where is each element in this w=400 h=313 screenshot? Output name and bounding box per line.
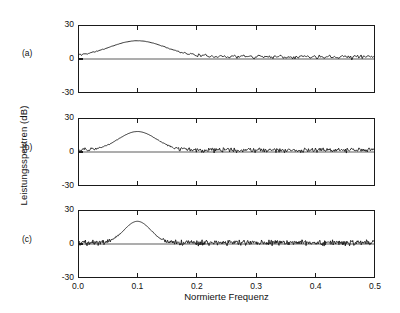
x-tick-mark bbox=[315, 273, 316, 278]
panel-c: 300-30 0.00.10.20.30.40.5 bbox=[78, 210, 375, 278]
y-tick-label: 30 bbox=[50, 19, 74, 29]
x-tick-mark bbox=[137, 273, 138, 278]
panel-label-c: (c) bbox=[22, 234, 48, 244]
x-tick-mark bbox=[374, 88, 375, 93]
spectrum-line bbox=[78, 132, 375, 154]
y-axis-label-text: Leistungsspektren (dB) bbox=[18, 81, 29, 231]
x-tick-mark bbox=[137, 88, 138, 93]
x-tick-label: 0.3 bbox=[241, 281, 271, 291]
y-tick-label: -30 bbox=[50, 180, 74, 190]
x-tick-label: 0.2 bbox=[182, 281, 212, 291]
x-tick-mark bbox=[374, 181, 375, 186]
x-axis-label: Normierte Frequenz bbox=[78, 291, 375, 302]
x-tick-mark bbox=[315, 88, 316, 93]
x-tick-mark bbox=[315, 210, 316, 215]
power-spectrum-figure: Leistungsspektren (dB) (a) (b) (c) 300-3… bbox=[0, 0, 400, 313]
x-tick-mark bbox=[196, 210, 197, 215]
y-tick-mark bbox=[78, 58, 83, 59]
x-tick-mark bbox=[196, 25, 197, 30]
x-tick-mark bbox=[256, 88, 257, 93]
panel-a-trace bbox=[78, 25, 375, 93]
x-tick-mark bbox=[256, 118, 257, 123]
y-tick-label: -30 bbox=[50, 87, 74, 97]
spectrum-line bbox=[78, 41, 375, 60]
x-tick-mark bbox=[256, 273, 257, 278]
y-tick-mark bbox=[78, 92, 83, 93]
panel-b: 300-30 bbox=[78, 118, 375, 186]
x-tick-mark bbox=[315, 118, 316, 123]
x-tick-mark bbox=[196, 181, 197, 186]
panel-a: 300-30 bbox=[78, 25, 375, 93]
y-tick-mark bbox=[78, 243, 83, 244]
panel-c-trace bbox=[78, 210, 375, 278]
panel-label-a: (a) bbox=[22, 48, 48, 58]
x-tick-mark bbox=[374, 118, 375, 123]
y-tick-label: 0 bbox=[50, 146, 74, 156]
y-tick-label: 0 bbox=[50, 238, 74, 248]
x-tick-mark bbox=[315, 25, 316, 30]
y-tick-mark bbox=[78, 118, 83, 119]
x-tick-mark bbox=[256, 25, 257, 30]
x-tick-mark bbox=[137, 210, 138, 215]
y-tick-label: 30 bbox=[50, 204, 74, 214]
x-tick-mark bbox=[196, 88, 197, 93]
y-axis-label: Leistungsspektren (dB) bbox=[0, 0, 14, 313]
y-tick-mark bbox=[78, 185, 83, 186]
x-tick-mark bbox=[137, 118, 138, 123]
x-tick-mark bbox=[196, 118, 197, 123]
y-tick-label: 30 bbox=[50, 112, 74, 122]
y-tick-mark bbox=[78, 151, 83, 152]
y-tick-mark bbox=[78, 277, 83, 278]
x-tick-mark bbox=[137, 181, 138, 186]
x-tick-mark bbox=[256, 181, 257, 186]
y-tick-label: 0 bbox=[50, 53, 74, 63]
x-tick-mark bbox=[374, 273, 375, 278]
panel-label-b: (b) bbox=[22, 142, 48, 152]
x-tick-label: 0.0 bbox=[63, 281, 93, 291]
panel-b-trace bbox=[78, 118, 375, 186]
spectrum-line bbox=[78, 221, 375, 246]
x-tick-label: 0.4 bbox=[301, 281, 331, 291]
x-tick-mark bbox=[196, 273, 197, 278]
y-tick-mark bbox=[78, 210, 83, 211]
x-tick-mark bbox=[315, 181, 316, 186]
x-tick-mark bbox=[374, 210, 375, 215]
x-tick-mark bbox=[137, 25, 138, 30]
x-tick-mark bbox=[256, 210, 257, 215]
y-tick-mark bbox=[78, 25, 83, 26]
x-tick-label: 0.5 bbox=[360, 281, 390, 291]
x-tick-label: 0.1 bbox=[122, 281, 152, 291]
x-tick-mark bbox=[374, 25, 375, 30]
